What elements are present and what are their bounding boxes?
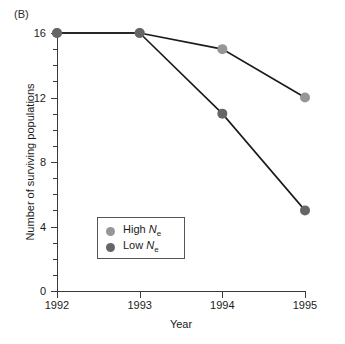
data-point-marker bbox=[300, 93, 310, 103]
data-point-marker bbox=[300, 205, 310, 215]
legend-marker-icon bbox=[106, 227, 115, 236]
chart-figure: (B) Number of surviving populations Year… bbox=[0, 0, 345, 344]
legend-label: Low Ne bbox=[123, 239, 159, 254]
legend-label: High Ne bbox=[123, 223, 161, 238]
legend-marker-icon bbox=[106, 243, 115, 252]
data-point-marker bbox=[52, 28, 62, 38]
series-line bbox=[57, 33, 305, 98]
data-point-marker bbox=[217, 109, 227, 119]
legend-item: Low Ne bbox=[106, 239, 184, 255]
legend: High NeLow Ne bbox=[97, 217, 185, 259]
series-line bbox=[57, 33, 305, 210]
legend-item: High Ne bbox=[106, 223, 184, 239]
data-point-marker bbox=[217, 44, 227, 54]
plot-data-layer bbox=[0, 0, 345, 344]
data-point-marker bbox=[135, 28, 145, 38]
